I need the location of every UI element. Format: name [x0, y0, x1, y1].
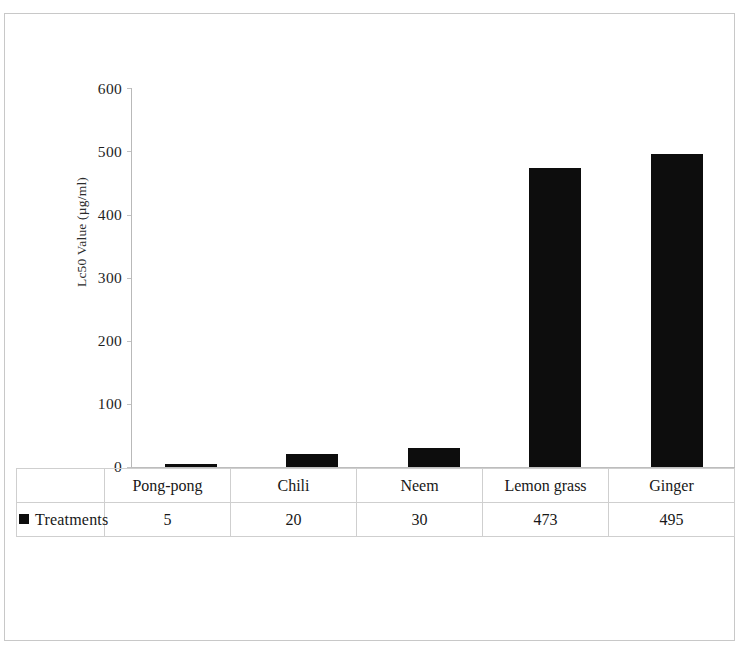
plot-area: [131, 88, 735, 467]
y-tick-label-400: 400: [80, 206, 122, 224]
table-value-lemon-grass: 473: [483, 503, 609, 537]
bar-pong-pong: [165, 464, 217, 467]
y-tick-label-200: 200: [80, 332, 122, 350]
legend-treatments: Treatments: [17, 503, 105, 537]
table-row-values: Treatments 5 20 30 473 495: [17, 503, 735, 537]
legend-swatch-icon: [19, 514, 29, 524]
table-value-pong-pong: 5: [105, 503, 231, 537]
table-row-categories: Pong-pong Chili Neem Lemon grass Ginger: [17, 469, 735, 503]
table-header-neem: Neem: [357, 469, 483, 503]
bar-ginger: [651, 154, 703, 467]
y-tick-label-600: 600: [80, 80, 122, 98]
legend-label: Treatments: [35, 511, 108, 529]
table-value-ginger: 495: [609, 503, 735, 537]
table-header-ginger: Ginger: [609, 469, 735, 503]
bar-chart-figure: Lc50 Value (µg/ml) 600 500 400 300 200 1…: [0, 0, 744, 659]
table-header-pong-pong: Pong-pong: [105, 469, 231, 503]
y-tick-label-500: 500: [80, 143, 122, 161]
table-value-neem: 30: [357, 503, 483, 537]
bar-lemon-grass: [529, 168, 581, 467]
table-corner-cell: [17, 469, 105, 503]
y-tick-label-300: 300: [80, 269, 122, 287]
chart-data-table: Pong-pong Chili Neem Lemon grass Ginger …: [16, 468, 735, 535]
bar-chili: [286, 454, 338, 467]
table-header-chili: Chili: [231, 469, 357, 503]
y-axis-title: Lc50 Value (µg/ml): [74, 132, 90, 332]
y-tick-label-100: 100: [80, 395, 122, 413]
bar-neem: [408, 448, 460, 467]
table-header-lemon-grass: Lemon grass: [483, 469, 609, 503]
table-value-chili: 20: [231, 503, 357, 537]
